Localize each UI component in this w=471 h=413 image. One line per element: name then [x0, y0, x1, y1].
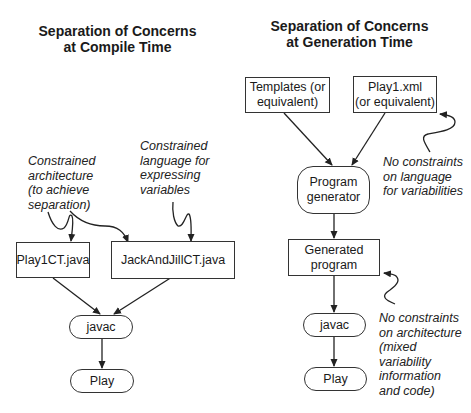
node-templates: Templates (or equivalent): [245, 77, 330, 113]
note-line: (to achieve: [28, 183, 95, 198]
left-title: Separation of Concerns at Compile Time: [30, 23, 205, 55]
note-line: (mixed: [379, 340, 462, 355]
squiggle-no-constraints-architecture: [384, 273, 398, 304]
note-line: language for: [140, 154, 210, 169]
note-line: architecture: [28, 169, 95, 184]
note-line: variables: [140, 183, 210, 198]
node-play-right: Play: [304, 367, 367, 391]
right-title: Separation of Concerns at Generation Tim…: [262, 18, 437, 50]
node-label: Play1.xml: [355, 80, 435, 95]
node-label: Play1CT.java: [17, 253, 90, 268]
node-label: generator: [307, 190, 361, 205]
node-javac-right: javac: [303, 313, 366, 337]
squiggle-architecture: [48, 212, 73, 241]
note-line: Constrained: [28, 154, 95, 169]
note-line: No constraints: [379, 311, 462, 326]
note-constrained-architecture: Constrained architecture (to achieve sep…: [28, 154, 95, 212]
node-label: program: [304, 258, 363, 273]
note-line: expressing: [140, 168, 210, 183]
note-line: on language: [383, 170, 463, 185]
squiggle-architecture-to-jackandjill: [70, 211, 128, 242]
note-line: information: [379, 369, 462, 384]
note-line: separation): [28, 198, 95, 213]
node-label: javac: [320, 318, 349, 333]
squiggle-no-constraints-language: [424, 114, 455, 152]
left-title-line-1: Separation of Concerns: [30, 23, 205, 39]
right-title-line-2: at Generation Time: [262, 34, 437, 50]
edge-jackandjill-to-javac: [114, 277, 172, 314]
edge-play1xml-to-generator: [352, 113, 385, 165]
note-no-constraints-language: No constraints on language for variabili…: [383, 155, 463, 199]
node-label: Play: [90, 374, 114, 389]
node-label: Templates (or: [250, 80, 326, 95]
node-label: Generated: [304, 243, 363, 258]
node-generated-program: Generated program: [288, 239, 380, 276]
node-play1ct-java: Play1CT.java: [16, 242, 90, 278]
note-no-constraints-architecture: No constraints on architecture (mixed va…: [379, 311, 462, 398]
note-line: variability: [379, 355, 462, 370]
node-label: equivalent): [250, 95, 326, 110]
left-title-line-2: at Compile Time: [30, 39, 205, 55]
node-javac-left: javac: [69, 315, 133, 339]
node-label: Play: [323, 372, 347, 387]
note-line: for variabilities: [383, 184, 463, 199]
note-line: Constrained: [140, 139, 210, 154]
node-play1-xml: Play1.xml (or equivalent): [353, 76, 437, 113]
note-line: and code): [379, 384, 462, 399]
node-label: (or equivalent): [355, 95, 435, 110]
right-title-line-1: Separation of Concerns: [262, 18, 437, 34]
edge-play1ct-to-javac: [53, 278, 100, 314]
squiggle-language: [173, 202, 191, 241]
node-jackandjillct-java: JackAndJillCT.java: [111, 241, 235, 279]
node-program-generator: Program generator: [297, 166, 370, 214]
node-label: Program: [307, 175, 361, 190]
node-label: JackAndJillCT.java: [121, 253, 225, 268]
note-line: No constraints: [383, 155, 463, 170]
node-label: javac: [86, 320, 115, 335]
note-constrained-language: Constrained language for expressing vari…: [140, 139, 210, 197]
note-line: on architecture: [379, 326, 462, 341]
edge-templates-to-generator: [284, 113, 332, 165]
diagram: Separation of Concerns at Compile Time C…: [0, 0, 471, 413]
node-play-left: Play: [70, 369, 134, 393]
